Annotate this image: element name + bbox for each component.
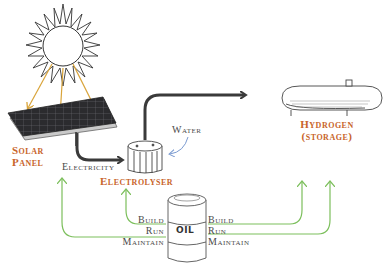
use-maintain-right: Maintain <box>208 236 250 247</box>
water-arrow <box>170 137 188 154</box>
electricity-arrow <box>77 133 122 160</box>
electrolyser-label: Electrolyser <box>100 176 173 187</box>
use-run-right: Run <box>208 225 250 236</box>
hydrogen-label: Hydrogen (storage) <box>297 119 357 142</box>
oil-uses-left: Build Run Maintain <box>120 214 164 247</box>
hydrogen-tank-icon <box>282 80 382 116</box>
electrolyser-icon <box>128 141 162 173</box>
use-build-right: Build <box>208 214 250 225</box>
oil-uses-right: Build Run Maintain <box>208 214 250 247</box>
water-label: Water <box>172 125 201 135</box>
use-run-left: Run <box>120 225 164 236</box>
solar-panel-label: Solar Panel <box>12 145 44 168</box>
electricity-label: Electricity <box>62 162 114 172</box>
oil-label: OIL <box>176 226 194 235</box>
use-build-left: Build <box>120 214 164 225</box>
use-maintain-left: Maintain <box>120 236 164 247</box>
solar-panel-icon <box>8 97 117 146</box>
